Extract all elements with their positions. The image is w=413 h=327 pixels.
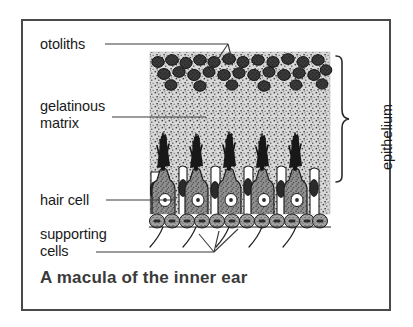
label-supporting-cells-line2: cells [40, 243, 107, 260]
label-hair-cell-text: hair cell [40, 192, 89, 208]
label-hair-cell: hair cell [40, 192, 89, 209]
label-gelatinous-matrix-line2: matrix [40, 115, 105, 132]
figure-title: A macula of the inner ear [40, 268, 247, 288]
label-gelatinous-matrix-line1: gelatinous [40, 98, 105, 115]
label-supporting-cells-line1: supporting [40, 226, 107, 243]
figure-root: otoliths gelatinous matrix hair cell sup… [0, 0, 413, 327]
label-epithelium: epithelium [379, 87, 395, 187]
label-epithelium-text: epithelium [379, 104, 395, 170]
label-supporting-cells: supporting cells [40, 226, 107, 260]
label-otoliths: otoliths [40, 36, 85, 53]
label-gelatinous-matrix: gelatinous matrix [40, 98, 105, 132]
label-otoliths-text: otoliths [40, 36, 85, 52]
